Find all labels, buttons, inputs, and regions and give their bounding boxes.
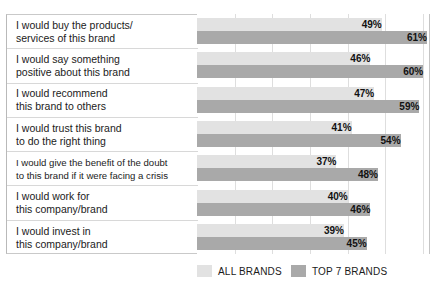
bar-track: 54% (197, 134, 442, 147)
category-label-line: to this brand if it were facing a crisis (16, 169, 190, 182)
legend-swatch-icon (197, 265, 212, 277)
bar-value-label: 59% (197, 100, 422, 113)
brand-advocacy-bar-chart: I would buy the products/services of thi… (0, 0, 442, 285)
category-label-line: I would recommend (16, 87, 190, 100)
category-label-row: I would give the benefit of the doubtto … (7, 152, 198, 186)
bar-value-label: 48% (197, 168, 381, 181)
legend-label: TOP 7 BRANDS (312, 266, 387, 277)
chart-body: I would buy the products/services of thi… (0, 14, 442, 254)
bar-value-label: 60% (197, 65, 426, 78)
bar-value-label: 41% (197, 121, 355, 134)
bar-group: 49%61% (197, 14, 442, 48)
bar-value-label: 45% (197, 237, 370, 250)
bar-group: 41%54% (197, 117, 442, 151)
category-label-row: I would say somethingpositive about this… (7, 49, 198, 83)
bar-value-label: 47% (197, 87, 377, 100)
bar-track: 47% (197, 87, 442, 100)
category-label-row: I would work forthis company/brand (7, 186, 198, 220)
plot-area: 49%61%46%60%47%59%41%54%37%48%40%46%39%4… (197, 14, 442, 254)
legend-item-all[interactable]: ALL BRANDS (197, 265, 282, 277)
bar-track: 40% (197, 190, 442, 203)
bar-value-label: 46% (197, 52, 373, 65)
bar-track: 37% (197, 155, 442, 168)
bar-track: 60% (197, 65, 442, 78)
bar-value-label: 54% (197, 134, 404, 147)
cropped-title-remnant (0, 0, 442, 8)
legend-item-top7[interactable]: TOP 7 BRANDS (291, 265, 387, 277)
bar-group: 47%59% (197, 83, 442, 117)
bar-value-label: 46% (197, 203, 373, 216)
bar-track: 61% (197, 31, 442, 44)
bar-value-label: 37% (197, 155, 339, 168)
category-label-row: I would trust this brandto do the right … (7, 118, 198, 152)
chart-legend: ALL BRANDSTOP 7 BRANDS (197, 264, 387, 278)
category-label-line: I would give the benefit of the doubt (16, 156, 190, 169)
bar-track: 39% (197, 224, 442, 237)
bar-track: 48% (197, 168, 442, 181)
bar-track: 46% (197, 203, 442, 216)
category-label-row: I would buy the products/services of thi… (7, 15, 198, 49)
bar-group: 46%60% (197, 48, 442, 82)
bar-track: 49% (197, 18, 442, 31)
bar-group: 37%48% (197, 151, 442, 185)
category-label-line: I would say something (16, 53, 190, 66)
category-label-line: positive about this brand (16, 66, 190, 79)
bar-value-label: 49% (197, 18, 385, 31)
category-label-line: this company/brand (16, 203, 190, 216)
legend-swatch-icon (291, 265, 306, 277)
bar-value-label: 39% (197, 224, 347, 237)
category-label-column: I would buy the products/services of thi… (6, 14, 197, 254)
category-label-row: I would recommendthis brand to others (7, 84, 198, 118)
bar-track: 46% (197, 52, 442, 65)
category-label-line: this company/brand (16, 238, 190, 251)
category-label-row: I would invest inthis company/brand (7, 221, 198, 255)
bar-value-label: 40% (197, 190, 351, 203)
category-label-line: I would invest in (16, 225, 190, 238)
bar-track: 41% (197, 121, 442, 134)
category-label-line: I would buy the products/ (16, 19, 190, 32)
legend-label: ALL BRANDS (218, 266, 282, 277)
bar-track: 45% (197, 237, 442, 250)
bar-value-label: 61% (197, 31, 430, 44)
category-label-line: to do the right thing (16, 135, 190, 148)
category-label-line: this brand to others (16, 100, 190, 113)
category-label-line: I would trust this brand (16, 122, 190, 135)
bar-group: 39%45% (197, 220, 442, 254)
bar-track: 59% (197, 100, 442, 113)
category-label-line: I would work for (16, 190, 190, 203)
bar-group: 40%46% (197, 185, 442, 219)
category-label-line: services of this brand (16, 32, 190, 45)
